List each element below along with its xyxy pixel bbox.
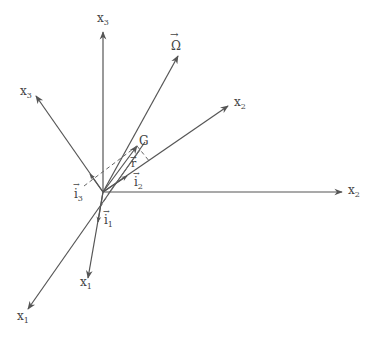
- i3-arrow-accent: →: [73, 180, 80, 189]
- label-x2-fixed: x2: [348, 183, 360, 199]
- label-omega: Ω: [171, 39, 181, 53]
- omega-vector: [103, 56, 178, 192]
- label-G: G: [139, 134, 149, 148]
- label-i3: i3: [74, 187, 83, 203]
- label-x2-body: x2: [234, 95, 246, 111]
- i1-arrow-accent: →: [103, 207, 110, 216]
- label-x1-body: x1: [80, 275, 92, 291]
- projection-line-x3: [84, 146, 137, 186]
- r-arrow-accent: →: [130, 153, 137, 162]
- omega-arrow-accent: →: [170, 29, 179, 40]
- projection-line-x2: [137, 146, 150, 162]
- i2-arrow-accent: →: [133, 169, 140, 178]
- label-x3-fixed: x3: [97, 11, 109, 27]
- diagram-canvas: x3 Ω → x3 x2 x2 G r → i2 → i3 → i1 → x1 …: [0, 0, 379, 339]
- label-x1-fixed: x1: [17, 309, 29, 325]
- label-x3-body: x3: [20, 84, 32, 100]
- i2-unit-vector: [103, 176, 127, 192]
